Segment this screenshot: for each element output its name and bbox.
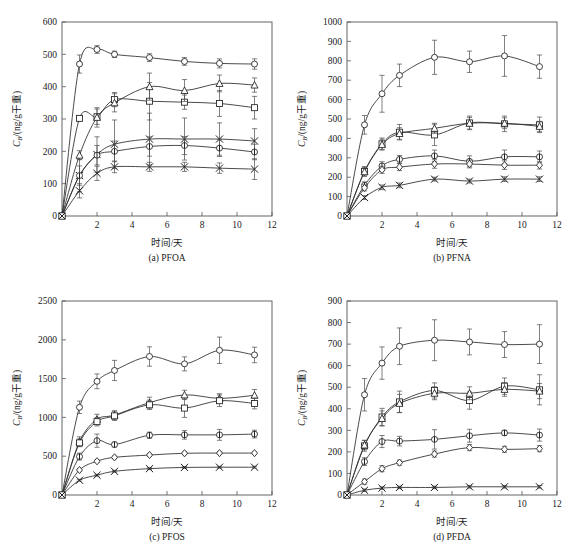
- data-marker-diamond: [432, 450, 438, 457]
- y-axis-title: CB/(ng/g干重): [11, 370, 23, 426]
- origin-marker-cluster: [59, 492, 65, 498]
- x-tick-label: 6: [165, 499, 170, 509]
- x-tick-label: 10: [517, 499, 527, 509]
- data-marker-square: [147, 402, 153, 408]
- chart-panel-c: 0500100015002000250024681012CB/(ng/g干重)时…: [0, 279, 285, 558]
- data-marker-circle: [467, 339, 473, 345]
- y-tick-label: 800: [328, 56, 343, 66]
- series-S1: [347, 36, 543, 216]
- series-curve: [347, 447, 540, 495]
- series-curve: [347, 123, 540, 216]
- series-S6: [347, 176, 543, 216]
- x-tick-label: 10: [232, 499, 242, 509]
- series-curve: [347, 56, 540, 216]
- series-curve: [347, 179, 540, 216]
- x-tick-label: 10: [517, 220, 527, 230]
- data-marker-diamond: [397, 164, 403, 171]
- x-axis-title: 时间/天: [151, 237, 184, 248]
- x-tick-label: 10: [232, 220, 242, 230]
- x-tick-label: 2: [380, 220, 385, 230]
- data-marker-circle: [379, 91, 385, 97]
- data-marker-diamond: [217, 449, 223, 456]
- data-marker-circle: [362, 122, 368, 128]
- data-marker-circle: [112, 367, 118, 373]
- y-tick-label: 0: [337, 211, 342, 221]
- data-marker-circle: [252, 61, 258, 67]
- plot-frame: [347, 22, 557, 216]
- x-tick-label: 12: [552, 499, 562, 509]
- y-tick-label: 0: [337, 490, 342, 500]
- data-marker-square: [94, 419, 100, 425]
- series-S1: [62, 46, 258, 216]
- series-curve: [347, 122, 540, 216]
- y-axis-title: CB/(ng/g干重): [296, 91, 308, 147]
- y-axis-title: CB/(ng/g干重): [11, 91, 23, 147]
- y-tick-label: 100: [43, 179, 58, 189]
- series-curve: [62, 47, 255, 216]
- y-tick-label: 200: [328, 172, 343, 182]
- x-tick-label: 12: [267, 499, 277, 509]
- x-tick-label: 4: [415, 220, 420, 230]
- y-tick-label: 900: [328, 37, 343, 47]
- x-tick-label: 6: [165, 220, 170, 230]
- series-S4: [62, 429, 258, 495]
- data-marker-circle: [94, 378, 100, 384]
- series-curve: [62, 395, 255, 495]
- series-S6: [347, 483, 543, 495]
- y-tick-label: 300: [43, 114, 58, 124]
- svg-text:CB/(ng/g干重): CB/(ng/g干重): [296, 370, 308, 426]
- x-axis-title: 时间/天: [436, 516, 469, 527]
- panel-caption: (c) PFOS: [149, 532, 185, 543]
- data-marker-diamond: [467, 444, 473, 451]
- data-marker-circle: [147, 353, 153, 359]
- y-tick-label: 1000: [323, 17, 342, 27]
- data-marker-square: [217, 100, 223, 106]
- data-marker-diamond: [252, 449, 258, 456]
- series-curve: [347, 433, 540, 495]
- x-axis-title: 时间/天: [151, 516, 184, 527]
- y-tick-label: 500: [43, 50, 58, 60]
- series-curve: [62, 139, 255, 216]
- y-tick-label: 200: [328, 447, 343, 457]
- series-curve: [347, 487, 540, 495]
- series-S5: [62, 136, 258, 216]
- y-tick-label: 400: [328, 404, 343, 414]
- data-marker-diamond: [112, 454, 118, 461]
- series-curve: [62, 401, 255, 495]
- x-tick-label: 6: [450, 220, 455, 230]
- data-marker-circle: [94, 46, 100, 52]
- y-tick-label: 200: [43, 147, 58, 157]
- data-marker-circle: [467, 59, 473, 65]
- data-marker-circle: [432, 54, 438, 60]
- series-S1: [347, 320, 543, 495]
- x-tick-label: 8: [200, 220, 205, 230]
- series-curve: [347, 340, 540, 495]
- data-marker-circle: [77, 404, 83, 410]
- figure-container: 010020030040050060024681012CB/(ng/g干重)时间…: [0, 0, 570, 558]
- y-tick-label: 700: [328, 339, 343, 349]
- data-marker-square: [217, 398, 223, 404]
- x-tick-label: 8: [485, 499, 490, 509]
- data-marker-square: [77, 440, 83, 446]
- y-tick-label: 100: [328, 192, 343, 202]
- svg-text:CB/(ng/g干重): CB/(ng/g干重): [11, 370, 23, 426]
- data-marker-diamond: [182, 450, 188, 457]
- data-marker-circle: [502, 53, 508, 59]
- series-curve: [62, 467, 255, 495]
- y-tick-label: 800: [328, 318, 343, 328]
- y-tick-label: 300: [328, 426, 343, 436]
- x-tick-label: 4: [415, 499, 420, 509]
- data-marker-circle: [432, 337, 438, 343]
- y-tick-label: 700: [328, 75, 343, 85]
- data-marker-circle: [217, 60, 223, 66]
- y-tick-label: 900: [328, 296, 343, 306]
- x-axis-title: 时间/天: [436, 237, 469, 248]
- svg-text:CB/(ng/g干重): CB/(ng/g干重): [11, 91, 23, 147]
- y-tick-label: 100: [328, 469, 343, 479]
- data-marker-diamond: [502, 162, 508, 169]
- svg-text:CB/(ng/g干重): CB/(ng/g干重): [296, 91, 308, 147]
- series-curve: [62, 99, 255, 216]
- x-tick-label: 4: [130, 220, 135, 230]
- data-marker-square: [182, 405, 188, 411]
- data-marker-square: [252, 400, 258, 406]
